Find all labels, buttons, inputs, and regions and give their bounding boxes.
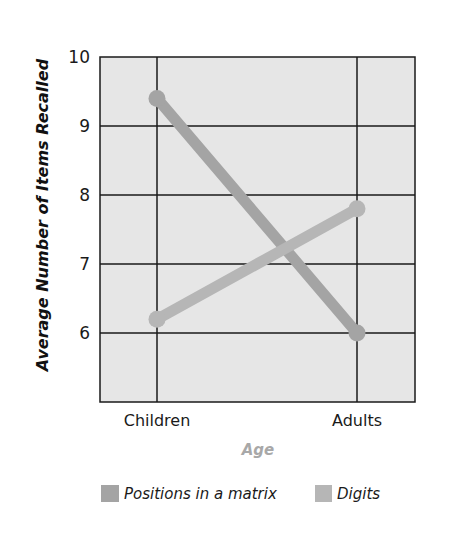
legend-label-matrix: Positions in a matrix	[124, 485, 277, 503]
x-category-label: Children	[124, 411, 191, 430]
y-tick-label: 6	[79, 323, 90, 343]
x-axis-title: Age	[241, 441, 275, 459]
x-category-label: Adults	[332, 411, 382, 430]
data-point	[149, 311, 166, 328]
line-chart: 678910 ChildrenAdults Average Number of …	[0, 0, 449, 549]
y-axis-tick-labels: 678910	[68, 47, 90, 343]
plot-area	[100, 57, 415, 402]
x-axis-category-labels: ChildrenAdults	[124, 411, 382, 430]
legend-item-positions-in-a-matrix: Positions in a matrix	[101, 485, 277, 503]
legend: Positions in a matrix Digits	[101, 485, 380, 503]
legend-swatch-digits	[315, 485, 332, 502]
y-tick-label: 10	[68, 47, 90, 67]
y-axis-title: Average Number of Items Recalled	[33, 58, 52, 373]
y-tick-label: 9	[79, 116, 90, 136]
legend-label-digits: Digits	[337, 485, 380, 503]
legend-swatch-matrix	[101, 485, 119, 502]
data-point	[349, 200, 366, 217]
legend-item-digits: Digits	[315, 485, 380, 503]
y-tick-label: 7	[79, 254, 90, 274]
data-point	[349, 325, 366, 342]
data-point	[149, 90, 166, 107]
y-tick-label: 8	[79, 185, 90, 205]
